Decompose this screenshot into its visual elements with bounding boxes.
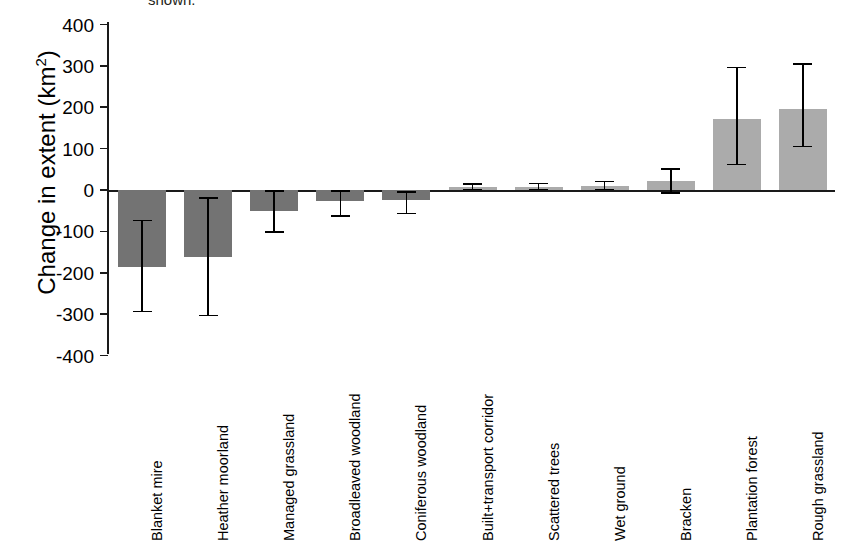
y-tick-label: 100 (2, 140, 94, 159)
error-bar-cap-upper (133, 220, 152, 222)
x-axis-label: Rough grassland (810, 431, 826, 541)
error-bar-cap-lower (793, 146, 812, 148)
error-bar-cap-upper (661, 168, 680, 170)
y-tick-mark (100, 313, 108, 315)
y-tick-mark (100, 24, 108, 26)
error-bar-line (207, 198, 209, 316)
y-tick-label: 200 (2, 98, 94, 117)
error-bar-cap-upper (199, 197, 218, 199)
caption-fragment: shown. (148, 0, 196, 8)
y-tick-label: -300 (2, 305, 94, 324)
error-bar-line (141, 221, 143, 312)
error-bar-cap-lower (727, 164, 746, 166)
error-bar-cap-upper (595, 181, 614, 183)
y-tick-mark (100, 355, 108, 357)
y-tick-mark (100, 272, 108, 274)
error-bar-line (802, 64, 804, 147)
x-axis-label: Blanket mire (149, 460, 165, 541)
error-bar-line (670, 169, 672, 193)
error-bar-cap-lower (463, 189, 482, 191)
error-bar-cap-lower (595, 189, 614, 191)
error-bar-line (736, 68, 738, 165)
figure-canvas: shown. Change in extent (km2) 4003002001… (0, 0, 843, 557)
error-bar-cap-upper (265, 190, 284, 192)
x-axis-label: Heather moorland (215, 425, 231, 541)
y-tick-mark (100, 231, 108, 233)
error-bar-line (406, 192, 408, 214)
error-bar-cap-lower (661, 192, 680, 194)
y-tick-mark (100, 65, 108, 67)
error-bar-cap-lower (529, 189, 548, 191)
x-axis-label: Built+transport corridor (480, 394, 496, 541)
y-tick-label: -400 (2, 347, 94, 366)
error-bar-cap-lower (199, 315, 218, 317)
x-axis-label: Broadleaved woodland (347, 393, 363, 541)
y-tick-mark (100, 106, 108, 108)
error-bar-cap-upper (793, 63, 812, 65)
error-bar-cap-lower (265, 231, 284, 233)
error-bar-cap-upper (529, 183, 548, 185)
error-bar-cap-lower (397, 213, 416, 215)
y-tick-label: -100 (2, 222, 94, 241)
y-axis-line (107, 22, 109, 354)
y-tick-label: 0 (2, 181, 94, 200)
error-bar-cap-upper (463, 183, 482, 185)
y-tick-mark (100, 148, 108, 150)
error-bar-line (340, 191, 342, 216)
x-axis-label: Coniferous woodland (413, 405, 429, 541)
error-bar-cap-lower (331, 215, 350, 217)
x-axis-label: Bracken (678, 488, 694, 541)
y-tick-label: -200 (2, 264, 94, 283)
error-bar-cap-lower (133, 311, 152, 313)
error-bar-cap-upper (331, 190, 350, 192)
y-tick-mark (100, 189, 108, 191)
y-tick-label: 300 (2, 57, 94, 76)
error-bar-line (273, 191, 275, 232)
error-bar-cap-upper (397, 191, 416, 193)
x-axis-label: Scattered trees (546, 443, 562, 541)
x-axis-label: Wet ground (612, 466, 628, 541)
x-axis-label: Plantation forest (744, 436, 760, 541)
error-bar-cap-upper (727, 67, 746, 69)
x-axis-label: Managed grassland (281, 414, 297, 541)
y-tick-label: 400 (2, 16, 94, 35)
